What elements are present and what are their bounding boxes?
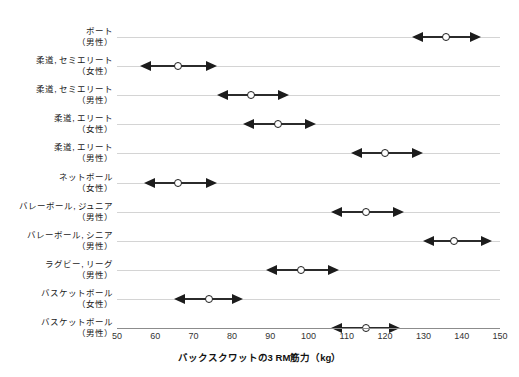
arrow-right-icon xyxy=(206,61,217,71)
row-baseline xyxy=(117,212,500,213)
category-label: 柔道, エリート（女性） xyxy=(0,113,113,135)
arrow-right-icon xyxy=(232,294,243,304)
arrow-left-icon xyxy=(174,294,185,304)
category-label-group: （男性） xyxy=(0,95,113,106)
category-label-sport: ネットボール xyxy=(0,172,113,183)
mean-marker xyxy=(442,33,450,41)
back-squat-strength-chart: ボート（男性）柔道, セミエリート（女性）柔道, セミエリート（男性）柔道, エ… xyxy=(0,0,519,377)
category-label-group: （男性） xyxy=(0,153,113,164)
category-axis-labels: ボート（男性）柔道, セミエリート（女性）柔道, セミエリート（男性）柔道, エ… xyxy=(0,8,113,328)
category-label: バレーボール, ジュニア（男性） xyxy=(0,201,113,223)
arrow-left-icon xyxy=(140,61,151,71)
arrow-left-icon xyxy=(243,119,254,129)
category-label-sport: バレーボール, シニア xyxy=(0,230,113,241)
mean-marker xyxy=(174,62,182,70)
category-label: 柔道, セミエリート（男性） xyxy=(0,84,113,106)
arrow-right-icon xyxy=(481,236,492,246)
category-label-sport: 柔道, セミエリート xyxy=(0,84,113,95)
category-label-group: （男性） xyxy=(0,212,113,223)
x-axis-line xyxy=(117,328,500,329)
mean-marker xyxy=(297,266,305,274)
mean-marker xyxy=(174,179,182,187)
x-tick-label: 70 xyxy=(189,331,199,341)
arrow-right-icon xyxy=(470,32,481,42)
x-tick-label: 130 xyxy=(416,331,431,341)
category-label-sport: バレーボール, ジュニア xyxy=(0,201,113,212)
x-tick-label: 140 xyxy=(454,331,469,341)
arrow-right-icon xyxy=(206,178,217,188)
category-label-group: （男性） xyxy=(0,270,113,281)
category-label: 柔道, エリート（男性） xyxy=(0,142,113,164)
mean-marker xyxy=(247,91,255,99)
category-label-sport: 柔道, エリート xyxy=(0,113,113,124)
category-label: バレーボール, シニア（男性） xyxy=(0,230,113,252)
category-label-group: （女性） xyxy=(0,183,113,194)
x-tick-label: 110 xyxy=(340,331,354,341)
arrow-left-icon xyxy=(423,236,434,246)
mean-marker xyxy=(362,208,370,216)
x-axis-ticks: 5060708090100110120130140150 xyxy=(117,331,500,345)
category-label-group: （女性） xyxy=(0,124,113,135)
arrow-right-icon xyxy=(278,90,289,100)
x-axis-title: バックスクワットの3 RM筋力（kg） xyxy=(0,350,519,364)
category-label-group: （女性） xyxy=(0,66,113,77)
mean-marker xyxy=(205,295,213,303)
category-label-group: （男性） xyxy=(0,328,113,339)
arrow-left-icon xyxy=(351,148,362,158)
x-tick-label: 100 xyxy=(301,331,316,341)
arrow-right-icon xyxy=(328,265,339,275)
category-label: ボート（男性） xyxy=(0,26,113,48)
arrow-left-icon xyxy=(331,207,342,217)
x-tick-label: 80 xyxy=(227,331,237,341)
x-tick-label: 150 xyxy=(492,331,507,341)
category-label-group: （女性） xyxy=(0,299,113,310)
mean-marker xyxy=(450,237,458,245)
category-label-sport: バスケットボール xyxy=(0,288,113,299)
mean-marker xyxy=(274,120,282,128)
category-label: バスケットボール（女性） xyxy=(0,288,113,310)
category-label-group: （男性） xyxy=(0,241,113,252)
mean-marker xyxy=(381,149,389,157)
row-baseline xyxy=(117,95,500,96)
category-label: バスケットボール（男性） xyxy=(0,317,113,339)
arrow-left-icon xyxy=(217,90,228,100)
category-label-sport: ラグビー, リーグ xyxy=(0,259,113,270)
category-label-sport: 柔道, エリート xyxy=(0,142,113,153)
arrow-left-icon xyxy=(266,265,277,275)
x-tick-label: 90 xyxy=(265,331,275,341)
category-label: ラグビー, リーグ（男性） xyxy=(0,259,113,281)
category-label-sport: 柔道, セミエリート xyxy=(0,55,113,66)
arrow-right-icon xyxy=(393,207,404,217)
x-tick-label: 60 xyxy=(150,331,160,341)
x-tick-label: 50 xyxy=(112,331,122,341)
category-label: 柔道, セミエリート（女性） xyxy=(0,55,113,77)
arrow-left-icon xyxy=(144,178,155,188)
category-label: ネットボール（女性） xyxy=(0,172,113,194)
arrow-left-icon xyxy=(412,32,423,42)
plot-area xyxy=(117,8,500,328)
category-label-group: （男性） xyxy=(0,37,113,48)
arrow-right-icon xyxy=(305,119,316,129)
category-label-sport: ボート xyxy=(0,26,113,37)
arrow-right-icon xyxy=(412,148,423,158)
x-tick-label: 120 xyxy=(378,331,393,341)
row-baseline xyxy=(117,153,500,154)
category-label-sport: バスケットボール xyxy=(0,317,113,328)
